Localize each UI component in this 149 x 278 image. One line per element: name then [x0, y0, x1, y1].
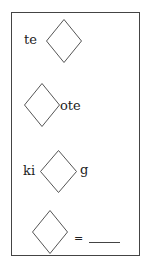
- diamond-icon: [32, 210, 68, 254]
- equals-sign: =: [74, 232, 83, 245]
- diamond-icon: [46, 19, 82, 63]
- answer-blank-line[interactable]: [89, 242, 120, 243]
- row2-suffix: ote: [60, 99, 81, 112]
- row3-prefix: ki: [23, 164, 35, 177]
- row3-suffix: g: [80, 163, 88, 176]
- row1-prefix: te: [24, 33, 37, 46]
- diamond-icon: [40, 150, 77, 193]
- diamond-icon: [24, 83, 60, 127]
